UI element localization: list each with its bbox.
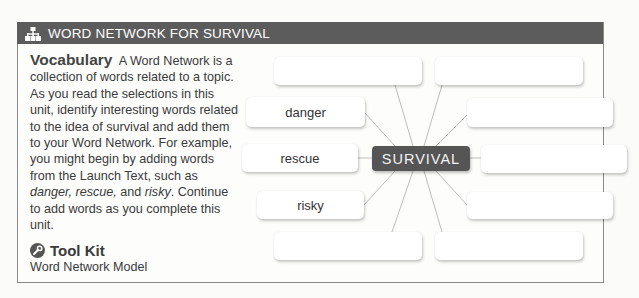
word-box-bottom-left[interactable]	[274, 232, 422, 260]
word-box-top-left[interactable]	[274, 57, 422, 85]
word-box-risky[interactable]: risky	[257, 191, 364, 219]
word-box-upper-right[interactable]	[467, 98, 613, 127]
word-box-lower-right[interactable]	[467, 192, 613, 219]
word-box-middle-right[interactable]	[481, 145, 627, 173]
word-box-bottom-right[interactable]	[435, 232, 583, 260]
word-box-danger[interactable]: danger	[246, 97, 365, 127]
word-box-rescue[interactable]: rescue	[242, 144, 358, 172]
center-topic-survival: SURVIVAL	[372, 146, 470, 171]
word-box-top-right[interactable]	[435, 57, 583, 85]
